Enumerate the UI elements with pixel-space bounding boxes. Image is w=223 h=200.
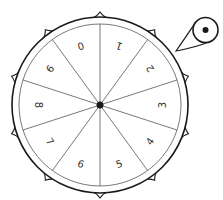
spinner-diagram: 0123456789	[0, 0, 223, 200]
pointer-dot	[203, 27, 209, 33]
sector-label: 3	[157, 102, 168, 108]
spinner-svg: 0123456789	[0, 0, 223, 200]
wheel-hub	[97, 102, 104, 109]
sector-label: 8	[33, 102, 44, 108]
spinner-pointer	[176, 18, 218, 52]
